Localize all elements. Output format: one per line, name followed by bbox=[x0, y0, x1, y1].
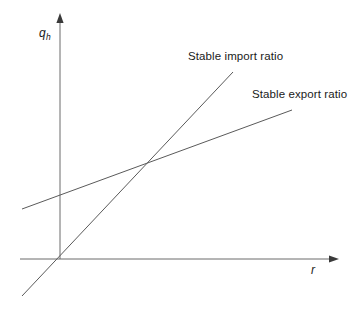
x-axis-label: r bbox=[311, 264, 315, 276]
stable-import-ratio-label: Stable import ratio bbox=[188, 51, 283, 63]
y-axis-arrow-icon bbox=[56, 13, 63, 23]
figure-canvas: Stable import ratio Stable export ratio … bbox=[0, 0, 359, 309]
stable-export-ratio-line bbox=[22, 110, 292, 209]
stable-export-ratio-label: Stable export ratio bbox=[252, 89, 347, 101]
y-axis-group bbox=[56, 13, 63, 259]
y-axis-label: qh bbox=[39, 27, 50, 39]
stable-import-ratio-line bbox=[22, 72, 233, 296]
x-axis-group bbox=[20, 255, 339, 262]
x-axis-arrow-icon bbox=[329, 255, 339, 262]
y-axis-label-subscript: h bbox=[46, 32, 51, 42]
diagram-svg bbox=[0, 0, 359, 309]
y-axis-label-base: q bbox=[39, 26, 46, 40]
